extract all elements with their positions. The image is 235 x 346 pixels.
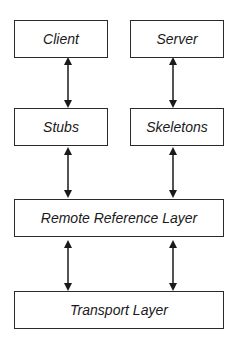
transport-layer-box: Transport Layer — [14, 291, 224, 329]
stubs-box: Stubs — [14, 108, 108, 146]
client-box: Client — [14, 20, 108, 58]
remote-reference-layer-box: Remote Reference Layer — [14, 199, 224, 237]
server-box: Server — [130, 20, 224, 58]
transport-layer-label: Transport Layer — [70, 302, 168, 318]
server-label: Server — [156, 31, 197, 47]
client-label: Client — [43, 31, 79, 47]
skeletons-box: Skeletons — [130, 108, 224, 146]
skeletons-label: Skeletons — [146, 119, 207, 135]
remote-reference-layer-label: Remote Reference Layer — [41, 210, 197, 226]
stubs-label: Stubs — [43, 119, 79, 135]
